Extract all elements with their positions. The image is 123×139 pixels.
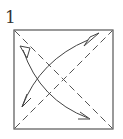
origami-diagram (0, 0, 123, 139)
arrowhead-icon (78, 112, 90, 119)
arrowhead-icon (22, 94, 31, 107)
fold-arrow-1 (22, 40, 88, 107)
arrowhead-open-icon (84, 33, 99, 46)
fold-arrow-2 (23, 50, 88, 118)
